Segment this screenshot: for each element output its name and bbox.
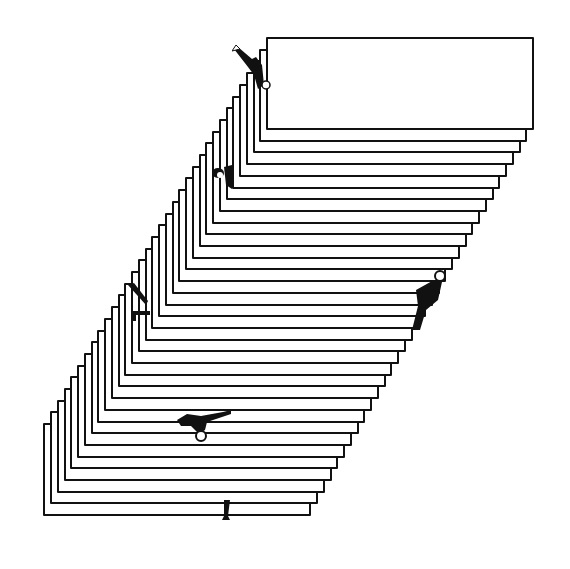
- figure-right-climbing-icon: [412, 270, 448, 338]
- figure-upper-left-icon: [210, 165, 236, 197]
- figure-top-waving-icon: [232, 45, 272, 99]
- artwork-canvas: [0, 0, 570, 569]
- paper-sheet: [266, 37, 534, 130]
- figure-middle-left-icon: [128, 283, 154, 327]
- figure-lower-reaching-icon: [177, 410, 233, 448]
- figure-bottom-legs-icon: [220, 500, 234, 526]
